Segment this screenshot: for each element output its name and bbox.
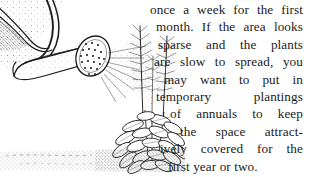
watering-can-body xyxy=(0,0,68,64)
text-line: once a week for the first xyxy=(150,1,303,18)
text-line: ively covered for the xyxy=(150,140,303,157)
text-line: temporary plantings xyxy=(150,88,303,105)
book-page: once a week for the first month. If the … xyxy=(0,0,309,177)
watering-can-spout xyxy=(10,40,100,82)
text-line: of annuals to keep xyxy=(150,105,303,122)
text-line: month. If the area looks xyxy=(150,18,303,35)
water-drip-stipple xyxy=(0,30,34,70)
can-shadow-stipple xyxy=(0,16,30,51)
text-line: are slow to spread, you xyxy=(150,53,303,70)
text-line: first year or two. xyxy=(150,158,303,175)
text-line: the space attract- xyxy=(150,123,303,140)
sprinkler-rose-head xyxy=(70,31,116,81)
water-spray-stipple xyxy=(104,38,152,104)
text-line: sparse and the plants xyxy=(150,36,303,53)
body-paragraph: once a week for the first month. If the … xyxy=(150,1,303,175)
water-spray xyxy=(101,46,146,102)
text-line: may want to put in xyxy=(150,71,303,88)
